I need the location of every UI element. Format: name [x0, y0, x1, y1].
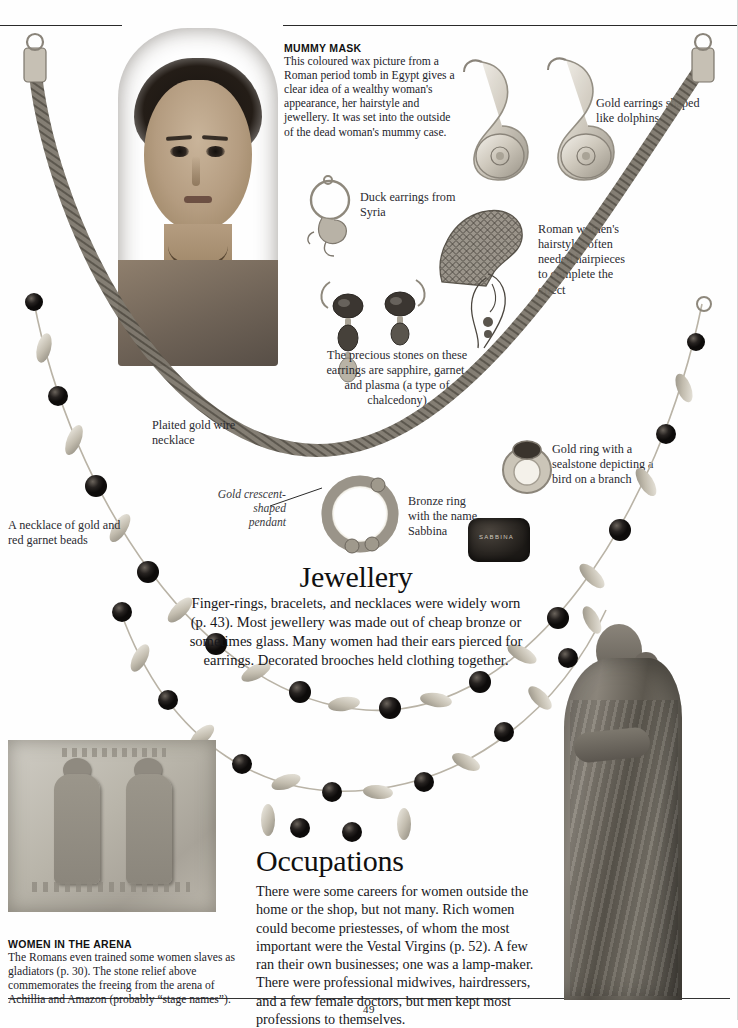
garnet-necklace-label: A necklace of gold and red garnet beads — [8, 518, 136, 548]
women-in-arena-caption-body: The Romans even trained some women slave… — [8, 951, 240, 1008]
gladiator-relief — [8, 740, 216, 912]
occupations-title: Occupations — [256, 844, 556, 878]
relief-figure-right — [126, 774, 172, 884]
top-rule-left — [0, 25, 122, 26]
women-in-arena-caption-heading: WOMEN IN THE ARENA — [8, 938, 240, 951]
roman-woman-statue — [552, 610, 702, 1000]
relief-figure-left — [54, 774, 100, 884]
relief-inscription-top — [62, 748, 166, 757]
women-in-arena-caption: WOMEN IN THE ARENA The Romans even train… — [8, 938, 240, 1007]
jewellery-title: Jewellery — [196, 560, 516, 594]
top-rule-right — [283, 25, 738, 26]
occupations-body: There were some careers for women outsid… — [256, 882, 544, 1028]
jewellery-body: Finger-rings, bracelets, and necklaces w… — [186, 594, 526, 670]
relief-inscription-bottom — [32, 882, 190, 892]
